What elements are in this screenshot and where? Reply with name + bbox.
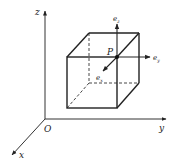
ex-arrow xyxy=(103,57,117,71)
ey-label: ey xyxy=(153,54,160,63)
ez-label: ez xyxy=(113,15,120,24)
point-p xyxy=(115,55,119,59)
z-axis-label: z xyxy=(34,7,40,17)
point-label: P xyxy=(106,47,114,57)
origin-label: O xyxy=(44,124,52,134)
cube-diagram: z y x O P ez ey ex xyxy=(0,0,175,165)
x-axis xyxy=(12,119,45,155)
y-axis-label: y xyxy=(158,123,165,133)
ex-label: ex xyxy=(96,74,103,83)
x-axis-label: x xyxy=(19,150,24,160)
